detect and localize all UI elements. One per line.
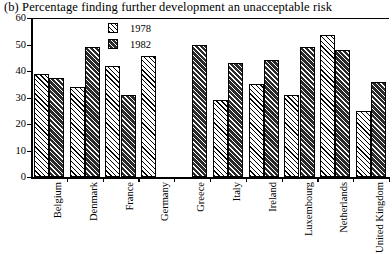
x-axis-label: France bbox=[125, 182, 136, 211]
y-tick-label: 60 bbox=[16, 13, 27, 24]
x-axis-label: Denmark bbox=[89, 182, 100, 221]
legend-label-1982: 1982 bbox=[130, 38, 151, 51]
bar bbox=[121, 95, 136, 177]
x-axis-label: Ireland bbox=[268, 182, 279, 212]
x-tick-mark bbox=[353, 177, 354, 182]
x-tick-mark bbox=[389, 177, 390, 182]
x-tick-mark bbox=[103, 177, 104, 182]
bar bbox=[49, 78, 64, 177]
hatch-light-swatch bbox=[108, 23, 118, 33]
x-tick-mark bbox=[138, 177, 139, 182]
bar bbox=[335, 50, 350, 177]
x-tick-mark bbox=[317, 177, 318, 182]
x-axis-label: Germany bbox=[160, 182, 171, 221]
hatch-dark-swatch bbox=[108, 39, 118, 49]
bar bbox=[249, 84, 264, 177]
chart-title: (b) Percentage finding further developme… bbox=[4, 0, 332, 15]
x-axis-label: Belgium bbox=[53, 182, 64, 218]
bar bbox=[228, 63, 243, 177]
bar bbox=[356, 111, 371, 177]
x-axis-label: Italy bbox=[232, 182, 243, 201]
bar bbox=[213, 100, 228, 177]
y-tick-label: 40 bbox=[16, 66, 27, 77]
bar bbox=[320, 35, 335, 177]
bar bbox=[70, 87, 85, 177]
x-axis-label: Netherlands bbox=[339, 182, 350, 233]
legend-item-1982: 1982 bbox=[108, 37, 151, 51]
chart-legend: 1978 1982 bbox=[108, 21, 151, 53]
y-tick-label: 30 bbox=[16, 92, 27, 103]
bar bbox=[192, 45, 207, 178]
bar bbox=[105, 66, 120, 177]
legend-label-1978: 1978 bbox=[130, 22, 151, 35]
x-tick-mark bbox=[282, 177, 283, 182]
bar bbox=[34, 74, 49, 177]
y-tick-label: 10 bbox=[16, 145, 27, 156]
x-axis-label: Greece bbox=[196, 182, 207, 212]
plot-area bbox=[31, 18, 389, 177]
x-tick-mark bbox=[210, 177, 211, 182]
x-axis-label: United Kingdom bbox=[375, 182, 386, 253]
y-tick-label: 50 bbox=[16, 39, 27, 50]
x-axis-label: Luxembourg bbox=[304, 182, 315, 236]
bar bbox=[371, 82, 386, 177]
legend-item-1978: 1978 bbox=[108, 21, 151, 35]
x-tick-mark bbox=[67, 177, 68, 182]
bar bbox=[300, 47, 315, 177]
x-tick-mark bbox=[246, 177, 247, 182]
y-tick-mark bbox=[27, 177, 32, 178]
bar bbox=[85, 47, 100, 177]
bar bbox=[284, 95, 299, 177]
bar bbox=[264, 60, 279, 177]
y-tick-label: 0 bbox=[21, 172, 26, 183]
x-tick-mark bbox=[174, 177, 175, 182]
bar bbox=[141, 56, 156, 177]
y-tick-label: 20 bbox=[16, 119, 27, 130]
